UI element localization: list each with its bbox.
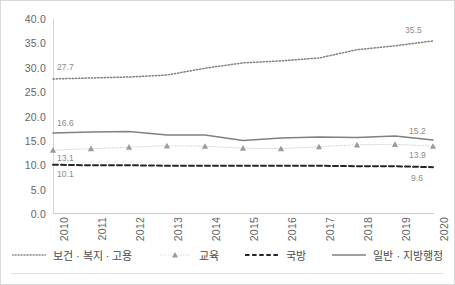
y-tick-20: 20.0 xyxy=(25,111,46,123)
datalabel-defense-2010: 10.1 xyxy=(57,169,74,179)
y-tick-0: 0.0 xyxy=(31,208,46,220)
y-tick-15: 15.0 xyxy=(25,135,46,147)
footer-divider xyxy=(11,273,444,274)
chart-container: 0.0 5.0 10.0 15.0 20.0 25.0 30.0 35.0 40… xyxy=(0,0,455,285)
legend-item-education[interactable]: 교육 xyxy=(158,247,219,263)
x-tick-2013: 2013 xyxy=(172,217,184,241)
legend-label-administration: 일반 · 지방행정 xyxy=(373,247,443,263)
x-tick-2012: 2012 xyxy=(134,217,146,241)
datalabel-health-2010: 27.7 xyxy=(57,62,74,72)
x-tick-2011: 2011 xyxy=(96,217,108,240)
legend-label-education: 교육 xyxy=(199,247,219,263)
legend-item-health-welfare-employment[interactable]: 보건 · 복지 · 고용 xyxy=(12,247,133,263)
x-tick-2020: 2020 xyxy=(438,217,450,241)
y-tick-40: 40.0 xyxy=(25,13,46,25)
y-tick-35: 35.0 xyxy=(25,37,46,49)
plot-area: 0.0 5.0 10.0 15.0 20.0 25.0 30.0 35.0 40… xyxy=(53,19,433,214)
y-tick-30: 30.0 xyxy=(25,62,46,74)
series-line-2 xyxy=(53,165,433,167)
x-tick-2016: 2016 xyxy=(286,217,298,241)
datalabel-admin-2020: 15.2 xyxy=(409,126,426,136)
series-marker-1-0 xyxy=(50,147,56,153)
x-tick-2017: 2017 xyxy=(324,217,336,241)
legend-label-health: 보건 · 복지 · 고용 xyxy=(53,247,133,263)
series-line-3 xyxy=(53,132,433,141)
dashed-line-swatch-icon xyxy=(245,250,279,260)
legend-label-defense: 국방 xyxy=(286,247,306,263)
datalabel-education-2020: 13.9 xyxy=(409,150,426,160)
y-tick-5: 5.0 xyxy=(31,184,46,196)
series-line-0 xyxy=(53,41,433,79)
x-tick-2014: 2014 xyxy=(210,217,222,241)
x-tick-2019: 2019 xyxy=(400,217,412,241)
legend-item-defense[interactable]: 국방 xyxy=(245,247,306,263)
x-tick-2018: 2018 xyxy=(362,217,374,241)
x-tick-2015: 2015 xyxy=(248,217,260,241)
y-tick-10: 10.0 xyxy=(25,159,46,171)
datalabel-education-2010: 13.1 xyxy=(57,153,74,163)
series-lines xyxy=(53,19,433,214)
triangle-marker-swatch-icon xyxy=(158,250,192,260)
datalabel-defense-2020: 9.6 xyxy=(411,173,423,183)
x-tick-2010: 2010 xyxy=(58,217,70,241)
solid-line-swatch-icon xyxy=(332,250,366,260)
legend-item-general-local-administration[interactable]: 일반 · 지방행정 xyxy=(332,247,443,263)
y-tick-25: 25.0 xyxy=(25,86,46,98)
chart-legend: 보건 · 복지 · 고용 교육 국방 xyxy=(1,247,454,263)
datalabel-admin-2010: 16.6 xyxy=(57,118,74,128)
dotted-line-swatch-icon xyxy=(12,250,46,260)
datalabel-health-2020: 35.5 xyxy=(405,25,422,35)
